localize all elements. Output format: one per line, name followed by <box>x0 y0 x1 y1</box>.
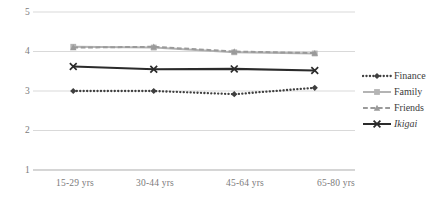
legend-item-family[interactable]: Family <box>362 84 446 100</box>
marker-diamond <box>231 91 237 97</box>
series-line-ikigai <box>73 67 314 71</box>
legend-item-friends[interactable]: Friends <box>362 100 446 116</box>
xtick-label-3: 65-80 yrs <box>296 178 376 188</box>
xtick-label-2: 45-64 yrs <box>205 178 285 188</box>
xtick-label-1: 30-44 yrs <box>115 178 195 188</box>
legend-key-finance-dotted-diamond <box>362 69 392 83</box>
chart-legend: Finance Family Friends Ikigai <box>362 68 446 132</box>
legend-key-ikigai-solid-x <box>362 117 392 131</box>
marker-diamond <box>70 88 76 94</box>
legend-label-ikigai: Ikigai <box>394 119 417 129</box>
line-chart: 5 4 3 2 1 15-29 yrs 30-44 yrs 45-64 yrs … <box>0 0 446 209</box>
xtick-label-0: 15-29 yrs <box>35 178 115 188</box>
marker-diamond <box>312 85 318 91</box>
ytick-label-5: 5 <box>14 7 30 17</box>
ytick-label-1: 1 <box>14 165 30 175</box>
legend-item-ikigai[interactable]: Ikigai <box>362 116 446 132</box>
legend-key-family-solid-square <box>362 85 392 99</box>
ytick-label-2: 2 <box>14 125 30 135</box>
marker-diamond <box>374 73 380 79</box>
ytick-label-4: 4 <box>14 46 30 56</box>
legend-label-finance: Finance <box>394 71 426 81</box>
marker-square <box>374 89 380 95</box>
marker-diamond <box>151 88 157 94</box>
legend-key-friends-dashed-triangle <box>362 101 392 115</box>
legend-label-friends: Friends <box>394 103 424 113</box>
ytick-label-3: 3 <box>14 86 30 96</box>
legend-label-family: Family <box>394 87 422 97</box>
legend-item-finance[interactable]: Finance <box>362 68 446 84</box>
